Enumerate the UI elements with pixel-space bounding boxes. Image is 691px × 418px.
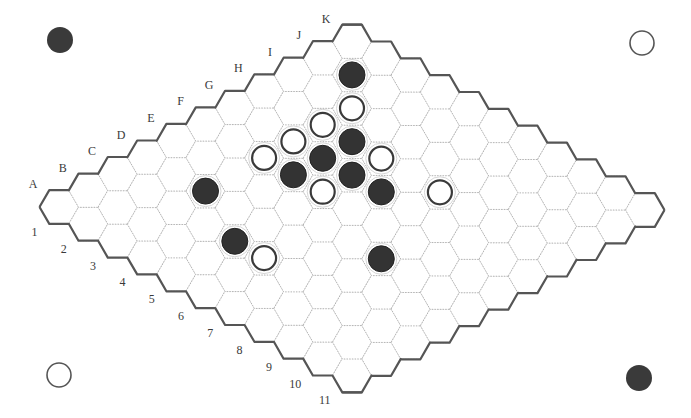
corner-marker-top-left-black: [47, 27, 73, 53]
row-label-7: 7: [207, 326, 213, 340]
column-label-D: D: [117, 128, 126, 142]
corner-marker-bottom-right-black: [626, 365, 652, 391]
row-label-5: 5: [149, 292, 155, 306]
column-label-I: I: [268, 45, 272, 59]
white-stone-H7[interactable]: [428, 180, 452, 204]
row-label-2: 2: [61, 242, 67, 256]
row-label-10: 10: [289, 377, 301, 391]
column-label-K: K: [322, 12, 331, 26]
black-stone-C5[interactable]: [222, 228, 248, 254]
column-label-B: B: [59, 161, 67, 175]
row-label-9: 9: [266, 360, 272, 374]
white-stone-H5[interactable]: [369, 147, 393, 171]
black-stone-J2[interactable]: [339, 62, 365, 88]
column-label-G: G: [205, 78, 214, 92]
column-label-H: H: [234, 61, 243, 75]
column-label-C: C: [88, 144, 96, 158]
column-label-F: F: [177, 94, 184, 108]
black-stone-H4[interactable]: [339, 129, 365, 155]
row-label-11: 11: [319, 393, 331, 407]
black-stone-F4[interactable]: [280, 162, 306, 188]
white-stone-G3[interactable]: [281, 129, 305, 153]
row-label-1: 1: [32, 225, 38, 239]
column-label-A: A: [29, 177, 38, 191]
black-stone-G4[interactable]: [310, 145, 336, 171]
hex-board: ABCDEFGHIJK1234567891011: [0, 0, 691, 418]
white-stone-F5[interactable]: [311, 180, 335, 204]
white-stone-C6[interactable]: [252, 246, 276, 270]
column-label-E: E: [147, 111, 154, 125]
row-label-4: 4: [119, 275, 125, 289]
row-label-8: 8: [237, 343, 243, 357]
white-stone-I3[interactable]: [340, 96, 364, 120]
black-stone-E8[interactable]: [368, 246, 394, 272]
black-stone-G6[interactable]: [368, 179, 394, 205]
row-label-3: 3: [90, 259, 96, 273]
white-stone-F3[interactable]: [252, 146, 276, 170]
black-stone-D3[interactable]: [193, 178, 219, 204]
white-stone-H3[interactable]: [311, 113, 335, 137]
column-label-J: J: [297, 28, 302, 42]
black-stone-G5[interactable]: [339, 162, 365, 188]
row-label-6: 6: [178, 309, 184, 323]
corner-marker-top-right-white: [630, 31, 654, 55]
corner-marker-bottom-left-white: [47, 363, 71, 387]
